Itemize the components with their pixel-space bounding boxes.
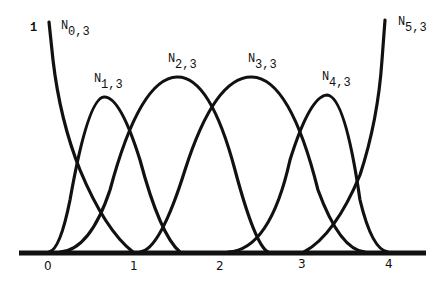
label-n5-3: N 5,3	[398, 15, 427, 35]
svg-text:5,3: 5,3	[405, 21, 427, 35]
svg-text:3,3: 3,3	[255, 58, 277, 72]
label-n1-3: N 1,3	[94, 72, 123, 92]
curve-n5-3	[304, 20, 385, 252]
x-tick-0: 0	[44, 259, 52, 273]
curve-n0-3	[49, 22, 133, 252]
label-n2-3: N 2,3	[168, 52, 197, 72]
x-tick-4: 4	[385, 257, 393, 271]
label-n4-3: N 4,3	[322, 70, 351, 90]
x-tick-3: 3	[298, 257, 306, 271]
y-tick-1: 1	[30, 21, 37, 35]
svg-text:1,3: 1,3	[101, 78, 123, 92]
x-tick-1: 1	[130, 259, 138, 273]
x-tick-2: 2	[216, 259, 224, 273]
svg-text:2,3: 2,3	[175, 58, 197, 72]
label-n3-3: N 3,3	[248, 52, 277, 72]
svg-text:4,3: 4,3	[329, 76, 351, 90]
b-spline-basis-diagram: 1 0 1 2 3 4 N 0,3 N 1,3 N 2,3 N 3,3 N 4,…	[0, 0, 446, 285]
svg-text:0,3: 0,3	[68, 25, 90, 39]
label-n0-3: N 0,3	[61, 19, 90, 39]
